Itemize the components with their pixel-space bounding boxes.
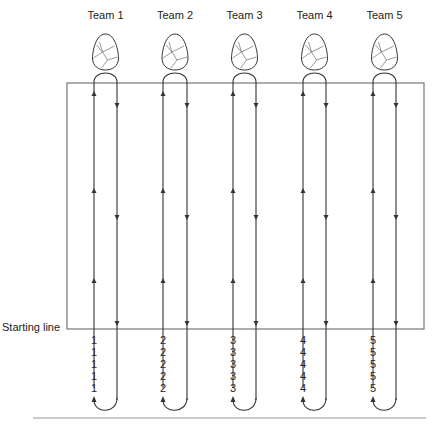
arrow-down-icon — [185, 103, 190, 108]
arrow-up-icon — [161, 278, 166, 283]
arrow-down-icon — [324, 103, 329, 108]
team-1-lane — [92, 34, 120, 410]
arrow-up-icon — [161, 396, 166, 402]
arrow-down-icon — [324, 321, 329, 326]
arrow-up-icon — [301, 396, 306, 402]
arrow-up-icon — [371, 396, 376, 402]
arrow-up-icon — [231, 396, 236, 402]
arrow-down-icon — [394, 321, 399, 326]
arrow-up-icon — [301, 278, 306, 283]
arrow-up-icon — [92, 278, 97, 283]
arrow-down-icon — [394, 103, 399, 108]
egg-icon — [232, 34, 258, 70]
arrow-up-icon — [92, 396, 97, 402]
arrow-up-icon — [371, 188, 376, 193]
arrow-down-icon — [115, 321, 120, 326]
arrow-up-icon — [161, 91, 166, 96]
arrow-up-icon — [301, 91, 306, 96]
egg-icon — [162, 34, 188, 70]
arrow-down-icon — [324, 215, 329, 220]
arrow-down-icon — [254, 103, 259, 108]
arrow-down-icon — [254, 321, 259, 326]
arrow-up-icon — [92, 91, 97, 96]
relay-diagram — [0, 0, 439, 431]
arrow-up-icon — [371, 278, 376, 283]
arrow-down-icon — [185, 215, 190, 220]
egg-icon — [93, 34, 119, 70]
arrow-down-icon — [254, 215, 259, 220]
arrow-down-icon — [115, 103, 120, 108]
arrow-up-icon — [301, 188, 306, 193]
team-5-lane — [371, 34, 399, 410]
team-2-lane — [161, 34, 190, 410]
arrow-down-icon — [115, 215, 120, 220]
arrow-up-icon — [371, 91, 376, 96]
arrow-up-icon — [231, 278, 236, 283]
arrow-down-icon — [394, 215, 399, 220]
egg-icon — [302, 34, 328, 70]
egg-icon — [372, 34, 398, 70]
arrow-up-icon — [231, 188, 236, 193]
team-3-lane — [231, 34, 259, 410]
arrow-down-icon — [185, 321, 190, 326]
team-4-lane — [301, 34, 329, 410]
arrow-up-icon — [161, 188, 166, 193]
arrow-up-icon — [231, 91, 236, 96]
arrow-up-icon — [92, 188, 97, 193]
playing-field — [67, 83, 424, 329]
